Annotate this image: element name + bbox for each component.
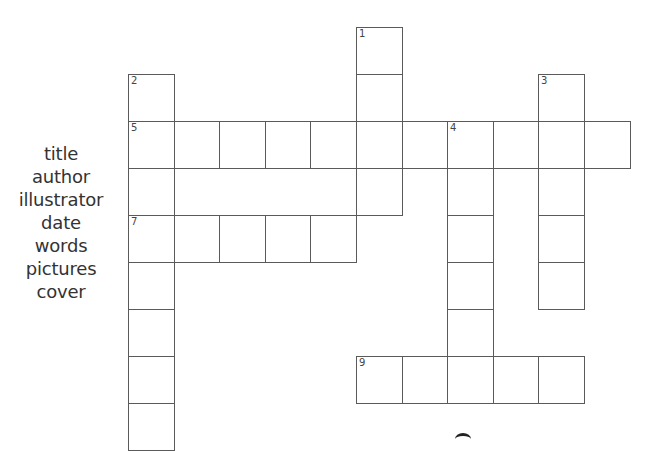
crossword-cell[interactable] — [128, 356, 175, 404]
crossword-cell[interactable] — [128, 262, 175, 310]
crossword-cell[interactable] — [447, 309, 494, 357]
scan-artifact — [455, 433, 471, 445]
crossword-cell[interactable] — [538, 215, 585, 263]
crossword-cell[interactable]: 5 — [128, 121, 175, 169]
crossword-cell[interactable] — [265, 215, 311, 263]
crossword-cell[interactable] — [493, 356, 539, 404]
crossword-cell[interactable] — [219, 215, 266, 263]
crossword-cell[interactable] — [174, 121, 220, 169]
crossword-cell[interactable] — [447, 168, 494, 216]
crossword-cell[interactable] — [356, 168, 403, 216]
crossword-cell[interactable] — [128, 403, 175, 451]
crossword-cell[interactable] — [447, 215, 494, 263]
crossword-cell[interactable] — [493, 121, 539, 169]
crossword-cell[interactable]: 9 — [356, 356, 403, 404]
crossword-cell[interactable] — [538, 356, 585, 404]
crossword-cell[interactable] — [538, 121, 585, 169]
crossword-cell[interactable]: 1 — [356, 27, 403, 75]
crossword-cell[interactable] — [174, 215, 220, 263]
crossword-cell[interactable] — [538, 262, 585, 310]
clue-number: 9 — [359, 357, 365, 369]
clue-number: 7 — [131, 216, 137, 228]
crossword-cell[interactable]: 2 — [128, 74, 175, 122]
crossword-cell[interactable] — [310, 215, 357, 263]
crossword-cell[interactable] — [356, 121, 403, 169]
crossword-cell[interactable] — [310, 121, 357, 169]
crossword-cell[interactable]: 3 — [538, 74, 585, 122]
crossword-cell[interactable] — [584, 121, 631, 169]
crossword-cell[interactable] — [538, 168, 585, 216]
crossword-cell[interactable] — [447, 356, 494, 404]
crossword-cell[interactable] — [265, 121, 311, 169]
clue-number: 1 — [359, 28, 365, 40]
crossword-cell[interactable] — [402, 121, 448, 169]
clue-number: 5 — [131, 122, 137, 134]
crossword-cell[interactable]: 4 — [447, 121, 494, 169]
clue-number: 3 — [541, 75, 547, 87]
crossword-cell[interactable] — [128, 309, 175, 357]
clue-number: 4 — [450, 122, 456, 134]
crossword-cell[interactable] — [356, 74, 403, 122]
crossword-cell[interactable]: 7 — [128, 215, 175, 263]
crossword-cell[interactable] — [447, 262, 494, 310]
crossword-cell[interactable] — [219, 121, 266, 169]
crossword-cell[interactable] — [128, 168, 175, 216]
crossword-cell[interactable] — [402, 356, 448, 404]
clue-number: 2 — [131, 75, 137, 87]
